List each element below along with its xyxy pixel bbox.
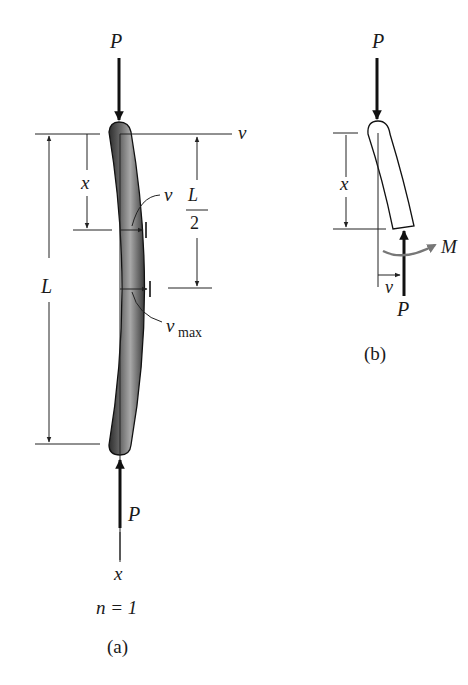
axis-x-label: x xyxy=(113,563,123,584)
dim-x-label: x xyxy=(80,172,90,193)
deflection-v-label-b: v xyxy=(385,277,393,297)
dim-x-label-b: x xyxy=(339,173,349,194)
figure-b: P x P M v (b) xyxy=(333,30,458,365)
dim-half-denominator: 2 xyxy=(190,213,199,233)
dim-L-label: L xyxy=(40,275,52,297)
caption-b: (b) xyxy=(364,343,386,365)
diagram-canvas: P v L x v L 2 xyxy=(0,0,468,685)
moment-arrow-icon xyxy=(383,245,435,255)
caption-a: (a) xyxy=(107,636,128,658)
buckling-column-diagram: P v L x v L 2 xyxy=(0,0,468,685)
deflection-vmax-subscript: max xyxy=(178,325,202,340)
dim-half-numerator: L xyxy=(187,185,198,205)
load-label-bottom-a: P xyxy=(127,503,140,525)
deflection-v-label: v xyxy=(164,184,173,205)
load-label-bottom-b: P xyxy=(396,298,409,320)
load-label-top-a: P xyxy=(109,30,122,52)
figure-a: P v L x v L 2 xyxy=(35,30,247,658)
deflection-vmax-label: v xyxy=(166,315,175,336)
column-segment xyxy=(368,121,414,229)
axis-v-label: v xyxy=(238,122,247,143)
mode-label: n = 1 xyxy=(96,597,137,618)
moment-label: M xyxy=(440,236,458,257)
load-label-top-b: P xyxy=(371,30,384,52)
